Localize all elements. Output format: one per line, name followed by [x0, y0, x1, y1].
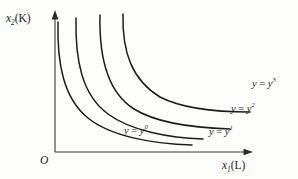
y-axis-label-paren: (K) — [15, 12, 31, 24]
curve-label-y2-lhs: y — [231, 103, 236, 114]
curve-label-y3-lhs: y — [252, 78, 257, 89]
curve-label-y0-exp: 0 — [145, 123, 148, 130]
x-axis — [55, 149, 253, 155]
isoquant-curve-y3 — [123, 14, 250, 112]
curve-label-y2-eq: = — [238, 103, 244, 114]
curve-label-y2-exp: 2 — [252, 101, 255, 108]
x-axis-label-paren: (L) — [231, 159, 246, 171]
figure-canvas — [0, 0, 298, 179]
x-axis-label: x1(L) — [222, 160, 245, 175]
curve-label-y1-lhs: y — [209, 126, 214, 137]
curve-label-y2: y = y2 — [231, 102, 255, 114]
y-axis-arrowhead — [52, 10, 59, 20]
origin-label: O — [40, 155, 48, 167]
curve-label-y1-exp: 1 — [230, 124, 233, 131]
curve-label-y3-eq: = — [259, 78, 265, 89]
isoquant-figure: x2(K) x1(L) O y = y0 y = y1 y = y2 y = y… — [0, 0, 298, 179]
curve-label-y0-eq: = — [131, 125, 137, 136]
x-axis-arrowhead — [244, 149, 254, 155]
isoquant-curve-y2 — [100, 15, 230, 129]
curve-label-y3: y = y3 — [252, 77, 276, 89]
curve-label-y0-lhs: y — [124, 125, 129, 136]
curve-label-y0: y = y0 — [124, 124, 148, 136]
curve-label-y1: y = y1 — [209, 125, 233, 137]
curve-label-y1-eq: = — [216, 126, 222, 137]
curve-label-y3-exp: 3 — [273, 76, 276, 83]
y-axis-label: x2(K) — [6, 13, 31, 28]
